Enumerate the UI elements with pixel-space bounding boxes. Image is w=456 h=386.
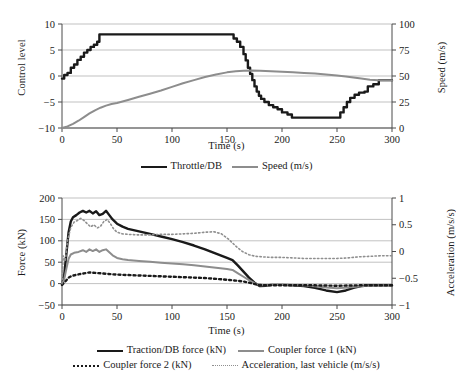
svg-text:1: 1 bbox=[399, 193, 404, 204]
legend-item-coupler-force-1: Coupler force 1 (kN) bbox=[238, 342, 356, 357]
bottom-legend-row-2: Coupler force 2 (kN) Acceleration, last … bbox=[0, 357, 453, 372]
legend-swatch-speed-icon bbox=[232, 161, 258, 170]
svg-text:−1: −1 bbox=[399, 300, 410, 311]
svg-text:0: 0 bbox=[50, 71, 55, 82]
bottom-x-axis-title: Time (s) bbox=[0, 325, 453, 336]
bottom-chart-figure: −50050100150200−1−0.500.5105010015020025… bbox=[0, 185, 453, 386]
svg-text:0.5: 0.5 bbox=[399, 219, 412, 230]
svg-text:150: 150 bbox=[219, 311, 235, 322]
top-chart-legend: Throttle/DB Speed (m/s) bbox=[0, 158, 453, 173]
legend-item-throttle: Throttle/DB bbox=[141, 158, 222, 173]
bottom-y2-axis-title: Acceleration (m/s/s) bbox=[445, 193, 456, 313]
svg-text:10: 10 bbox=[45, 19, 56, 30]
svg-text:100: 100 bbox=[164, 311, 180, 322]
svg-text:0: 0 bbox=[399, 123, 404, 134]
svg-text:300: 300 bbox=[384, 311, 400, 322]
svg-text:−50: −50 bbox=[39, 300, 55, 311]
svg-text:100: 100 bbox=[39, 235, 55, 246]
svg-text:50: 50 bbox=[112, 311, 123, 322]
legend-item-acceleration: Acceleration, last vehicle (m/s/s) bbox=[212, 357, 380, 372]
svg-text:−0.5: −0.5 bbox=[399, 273, 418, 284]
top-legend-row: Throttle/DB Speed (m/s) bbox=[0, 158, 453, 173]
svg-text:150: 150 bbox=[39, 214, 55, 225]
legend-swatch-coupler1-icon bbox=[238, 345, 264, 354]
svg-text:50: 50 bbox=[45, 257, 56, 268]
top-y-axis-title: Control level bbox=[16, 23, 27, 113]
svg-text:0: 0 bbox=[399, 246, 404, 257]
bottom-legend-row-1: Traction/DB force (kN) Coupler force 1 (… bbox=[0, 342, 453, 357]
svg-text:50: 50 bbox=[399, 71, 410, 82]
legend-label-speed: Speed (m/s) bbox=[262, 158, 312, 173]
svg-text:−10: −10 bbox=[39, 123, 55, 134]
legend-label-traction-force: Traction/DB force (kN) bbox=[127, 342, 226, 357]
legend-swatch-acceleration-icon bbox=[212, 360, 238, 369]
legend-label-throttle: Throttle/DB bbox=[171, 158, 222, 173]
legend-label-coupler-force-2: Coupler force 2 (kN) bbox=[103, 357, 191, 372]
svg-text:250: 250 bbox=[329, 311, 345, 322]
force-acceleration-plot: −50050100150200−1−0.500.5105010015020025… bbox=[0, 185, 453, 335]
svg-text:0: 0 bbox=[59, 311, 64, 322]
top-y2-axis-title: Speed (m/s) bbox=[436, 23, 447, 113]
legend-item-coupler-force-2: Coupler force 2 (kN) bbox=[73, 357, 191, 372]
svg-text:−5: −5 bbox=[44, 97, 55, 108]
legend-label-coupler-force-1: Coupler force 1 (kN) bbox=[268, 342, 356, 357]
svg-text:100: 100 bbox=[399, 19, 415, 30]
svg-text:25: 25 bbox=[399, 97, 410, 108]
svg-text:75: 75 bbox=[399, 45, 410, 56]
top-x-axis-title: Time (s) bbox=[0, 140, 453, 151]
legend-item-traction-force: Traction/DB force (kN) bbox=[97, 342, 226, 357]
legend-swatch-coupler2-icon bbox=[73, 360, 99, 369]
control-speed-plot: −10−505100255075100050100150200250300 bbox=[0, 0, 453, 150]
top-chart-figure: −10−505100255075100050100150200250300 Co… bbox=[0, 0, 453, 185]
svg-text:0: 0 bbox=[50, 278, 55, 289]
legend-swatch-traction-icon bbox=[97, 345, 123, 354]
bottom-y-axis-title: Force (kN) bbox=[16, 208, 27, 298]
legend-label-acceleration: Acceleration, last vehicle (m/s/s) bbox=[242, 357, 380, 372]
svg-text:200: 200 bbox=[39, 193, 55, 204]
bottom-chart-legend: Traction/DB force (kN) Coupler force 1 (… bbox=[0, 342, 453, 372]
svg-text:200: 200 bbox=[274, 311, 290, 322]
legend-swatch-throttle-icon bbox=[141, 161, 167, 170]
svg-text:5: 5 bbox=[50, 45, 55, 56]
legend-item-speed: Speed (m/s) bbox=[232, 158, 312, 173]
